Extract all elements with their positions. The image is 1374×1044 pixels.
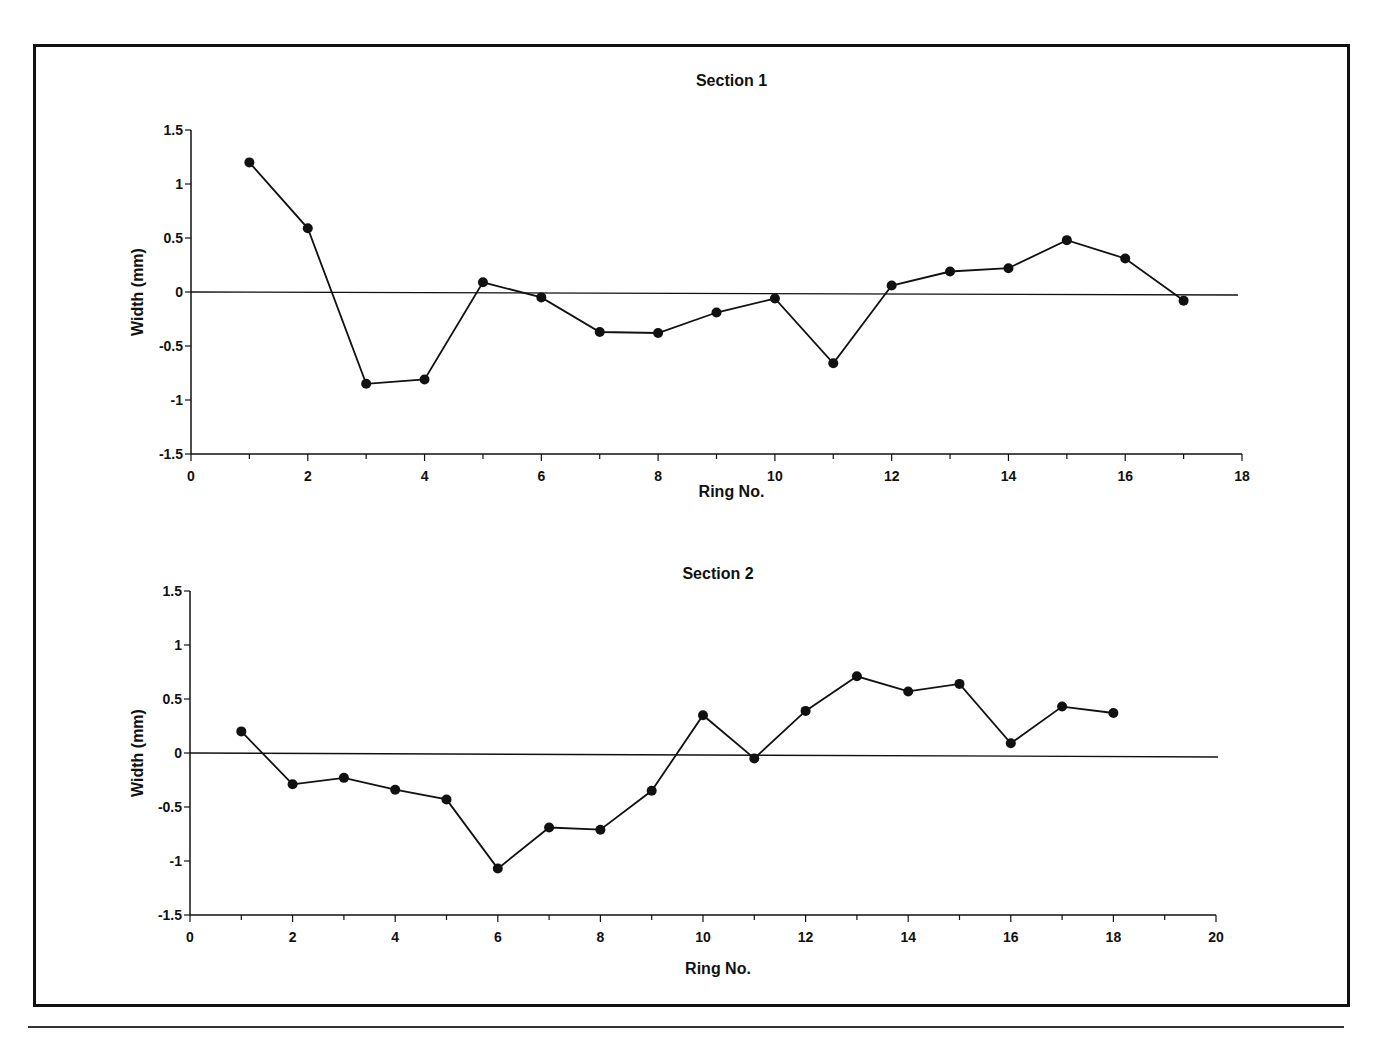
data-point-marker — [712, 308, 722, 318]
y-tick-label: -1 — [170, 853, 183, 869]
x-tick-label: 14 — [900, 929, 916, 945]
data-point-marker — [1108, 708, 1118, 718]
data-point-marker — [595, 327, 605, 337]
data-point-marker — [536, 292, 546, 302]
x-axis-label: Ring No. — [699, 483, 765, 500]
data-point-marker — [478, 277, 488, 287]
data-point-marker — [945, 266, 955, 276]
y-tick-label: 1.5 — [164, 122, 184, 138]
x-tick-label: 14 — [1001, 468, 1017, 484]
x-tick-label: 18 — [1106, 929, 1122, 945]
x-tick-label: 4 — [421, 468, 429, 484]
data-point-marker — [544, 823, 554, 833]
y-tick-label: 0 — [175, 284, 183, 300]
data-point-marker — [828, 358, 838, 368]
data-point-marker — [955, 679, 965, 689]
x-tick-label: 2 — [289, 929, 297, 945]
y-axis-label: Width (mm) — [129, 248, 146, 336]
data-point-marker — [595, 825, 605, 835]
chart-title: Section 1 — [696, 72, 767, 89]
data-line — [249, 162, 1183, 383]
x-tick-label: 10 — [767, 468, 783, 484]
data-point-marker — [236, 726, 246, 736]
data-point-marker — [749, 753, 759, 763]
data-point-marker — [361, 379, 371, 389]
y-tick-label: -0.5 — [159, 338, 183, 354]
y-tick-label: -1 — [171, 392, 184, 408]
data-point-marker — [770, 293, 780, 303]
y-tick-label: 1 — [175, 176, 183, 192]
x-tick-label: 20 — [1208, 929, 1224, 945]
y-axis-label: Width (mm) — [129, 709, 146, 797]
data-point-marker — [303, 223, 313, 233]
chart-section-2: Section 21.510.50-0.5-1-1.50246810121416… — [129, 565, 1224, 977]
y-tick-label: -0.5 — [158, 799, 182, 815]
x-tick-label: 10 — [695, 929, 711, 945]
x-tick-label: 0 — [186, 929, 194, 945]
data-point-marker — [288, 779, 298, 789]
y-tick-label: 0.5 — [164, 230, 184, 246]
x-tick-label: 12 — [798, 929, 814, 945]
x-tick-label: 0 — [187, 468, 195, 484]
data-point-marker — [903, 686, 913, 696]
zero-line — [191, 292, 1238, 295]
data-point-marker — [647, 786, 657, 796]
data-point-marker — [1003, 263, 1013, 273]
data-point-marker — [1057, 702, 1067, 712]
x-tick-label: 8 — [597, 929, 605, 945]
y-tick-label: 0 — [174, 745, 182, 761]
y-tick-label: 1.5 — [163, 583, 183, 599]
data-point-marker — [339, 773, 349, 783]
data-point-marker — [390, 785, 400, 795]
x-tick-label: 16 — [1003, 929, 1019, 945]
data-point-marker — [244, 157, 254, 167]
x-tick-label: 2 — [304, 468, 312, 484]
x-tick-label: 16 — [1117, 468, 1133, 484]
x-tick-label: 18 — [1234, 468, 1250, 484]
data-point-marker — [1120, 254, 1130, 264]
y-tick-label: -1.5 — [158, 907, 182, 923]
x-tick-label: 4 — [391, 929, 399, 945]
data-point-marker — [801, 706, 811, 716]
y-tick-label: 1 — [174, 637, 182, 653]
x-tick-label: 8 — [654, 468, 662, 484]
data-point-marker — [653, 328, 663, 338]
data-point-marker — [493, 864, 503, 874]
data-point-marker — [852, 671, 862, 681]
data-point-marker — [1006, 738, 1016, 748]
x-axis-label: Ring No. — [685, 960, 751, 977]
x-tick-label: 12 — [884, 468, 900, 484]
data-point-marker — [420, 374, 430, 384]
data-point-marker — [1179, 296, 1189, 306]
data-line — [241, 676, 1113, 868]
data-point-marker — [698, 710, 708, 720]
data-point-marker — [1062, 235, 1072, 245]
x-tick-label: 6 — [494, 929, 502, 945]
x-tick-label: 6 — [537, 468, 545, 484]
data-point-marker — [442, 794, 452, 804]
y-tick-label: 0.5 — [163, 691, 183, 707]
y-tick-label: -1.5 — [159, 446, 183, 462]
figure-canvas: Section 11.510.50-0.5-1-1.50246810121416… — [0, 0, 1374, 1044]
chart-title: Section 2 — [682, 565, 753, 582]
data-point-marker — [887, 281, 897, 291]
zero-line — [190, 753, 1218, 757]
chart-section-1: Section 11.510.50-0.5-1-1.50246810121416… — [129, 72, 1250, 500]
